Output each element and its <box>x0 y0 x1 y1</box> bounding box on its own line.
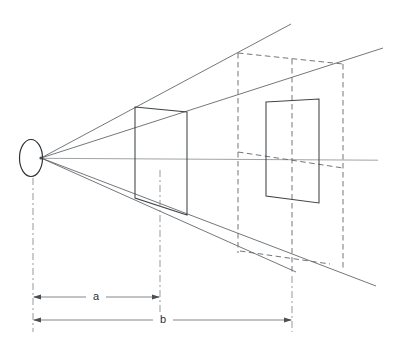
extension-lines-group <box>33 170 292 332</box>
dimension-a-group: a <box>33 290 160 302</box>
far-clipping-plane <box>266 99 319 203</box>
near-clipping-plane <box>135 107 187 215</box>
view-axis-group <box>41 158 378 160</box>
dimension-a-label: a <box>93 290 100 302</box>
dimension-b-label: b <box>160 313 166 325</box>
optical-axis-line <box>41 158 378 160</box>
near-plane-rect-group <box>135 107 187 215</box>
upper-outer-ray <box>41 24 291 158</box>
upper-inner-ray <box>41 48 383 158</box>
perspective-frustum-diagram: a b <box>0 0 396 347</box>
far-plane-rect-group <box>266 99 319 203</box>
apex-point <box>39 156 42 159</box>
dimension-a-arrow-right <box>152 295 160 300</box>
dashed-bottom-edge <box>240 251 330 264</box>
frustum-svg-canvas: a b <box>0 0 396 347</box>
dimension-b-arrow-left <box>33 318 41 323</box>
lower-outer-ray <box>41 158 376 286</box>
eye-ellipse <box>20 140 43 177</box>
dashed-top-edge <box>238 53 343 64</box>
lower-inner-ray <box>41 158 296 272</box>
dimension-b-group: b <box>33 313 292 325</box>
dimension-b-arrow-right <box>284 318 292 323</box>
dimension-a-arrow-left <box>33 295 41 300</box>
frustum-rays-group <box>41 24 383 286</box>
eye-group <box>20 140 43 177</box>
dashed-construction-group <box>238 53 343 274</box>
